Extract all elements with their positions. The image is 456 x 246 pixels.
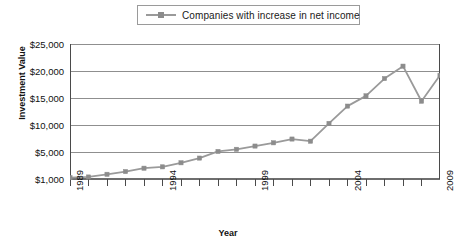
y-tick-label: $10,000 xyxy=(6,120,64,131)
data-point-marker xyxy=(197,156,201,160)
y-tick-label: $20,000 xyxy=(6,66,64,77)
data-point-marker xyxy=(216,149,220,153)
x-tick-label: 2004 xyxy=(352,170,363,191)
plot-area xyxy=(70,44,440,179)
data-point-marker xyxy=(123,169,127,173)
data-point-marker xyxy=(142,166,146,170)
y-tick-label: $5,000 xyxy=(6,147,64,158)
data-point-marker xyxy=(70,176,72,180)
x-tick-label: 1999 xyxy=(259,170,270,191)
series-line xyxy=(70,66,440,178)
data-point-marker xyxy=(290,137,294,141)
data-point-marker xyxy=(438,73,440,77)
y-tick-label: $25,000 xyxy=(6,39,64,50)
line-chart-svg xyxy=(70,44,440,189)
data-point-marker xyxy=(160,165,164,169)
data-point-marker xyxy=(364,94,368,98)
x-tick-label: 2009 xyxy=(444,170,455,191)
chart-legend: Companies with increase in net income xyxy=(137,5,360,25)
x-tick-label: 1994 xyxy=(167,170,178,191)
legend-line-marker-icon xyxy=(146,10,176,20)
data-point-marker xyxy=(105,172,109,176)
data-point-marker xyxy=(327,121,331,125)
y-tick-label: $15,000 xyxy=(6,93,64,104)
data-point-marker xyxy=(308,139,312,143)
data-point-marker xyxy=(382,76,386,80)
data-point-marker xyxy=(345,104,349,108)
data-point-marker xyxy=(179,161,183,165)
data-point-marker xyxy=(234,147,238,151)
data-point-marker xyxy=(86,175,90,179)
data-point-marker xyxy=(401,64,405,68)
data-point-marker xyxy=(419,99,423,103)
chart-container: Companies with increase in net income In… xyxy=(0,0,456,246)
y-tick-label: $1,000 xyxy=(6,174,64,185)
data-point-marker xyxy=(253,144,257,148)
x-axis-title: Year xyxy=(0,228,456,238)
legend-entry-label: Companies with increase in net income xyxy=(182,10,360,21)
x-tick-label: 1989 xyxy=(74,170,85,191)
data-point-marker xyxy=(271,141,275,145)
